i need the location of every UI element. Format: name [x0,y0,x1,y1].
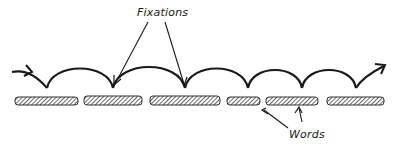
saccade-arc-5 [302,70,356,88]
saccade-arc-2 [113,67,185,88]
fixations-label: Fixations [137,6,188,19]
diagram-canvas [0,0,394,147]
word-row [15,96,384,105]
words-callout [262,107,302,128]
word-4 [227,97,260,105]
word-6 [327,97,384,105]
word-pointer-2-arrowhead-icon [295,107,302,113]
fixation-pointer-1 [115,22,148,84]
word-pointer-1 [264,110,288,128]
saccade-arc-4 [248,70,302,88]
fixations-callout [114,22,187,86]
exit-arrow [356,66,384,88]
word-3 [150,96,220,105]
saccade-arc-1 [47,69,113,89]
word-1 [15,97,78,105]
words-label: Words [289,128,325,141]
word-5 [266,97,318,105]
saccade-path [12,64,385,88]
word-2 [84,96,142,105]
saccade-arc-3 [185,69,248,89]
